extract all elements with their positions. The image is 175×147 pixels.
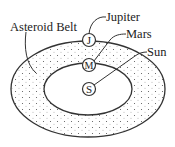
jupiter-symbol: J	[87, 34, 92, 46]
sun-body: S	[83, 83, 96, 96]
sun-symbol: S	[86, 83, 92, 95]
mars-symbol: M	[85, 60, 94, 71]
mars-body: M	[83, 59, 96, 72]
jupiter-body: J	[83, 34, 96, 47]
sun-label: Sun	[147, 45, 167, 59]
mars-label: Mars	[126, 27, 152, 41]
jupiter-label: Jupiter	[106, 10, 141, 24]
solar-system-diagram: J M S Jupiter Mars Sun Asteroid Belt	[0, 0, 175, 147]
asteroid-belt-label: Asteroid Belt	[10, 20, 78, 34]
